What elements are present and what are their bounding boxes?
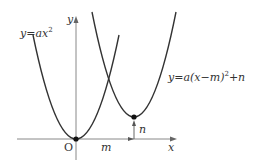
n-label: n [139, 124, 146, 135]
y-axis-label: y [67, 14, 73, 25]
curve2-suffix: +n [229, 71, 245, 84]
n-arrow-icon [132, 120, 136, 126]
m-arrow-icon [128, 137, 134, 141]
m-label: m [101, 142, 111, 153]
curve2-prefix: y=a(x−m) [168, 71, 224, 84]
curve1-text: y=ax [20, 27, 48, 40]
curve1-exp: 2 [48, 26, 52, 34]
origin-label: O [64, 142, 73, 153]
diagram-canvas: y x O m n y=ax2 y=a(x−m)2+n [0, 0, 254, 166]
parabola-shifted [92, 12, 176, 117]
vertex-point [131, 114, 136, 119]
origin-point [73, 136, 78, 141]
x-axis-label: x [168, 142, 174, 153]
y-axis-arrow-icon [74, 16, 79, 23]
curve2-label: y=a(x−m)2+n [168, 71, 245, 83]
curve1-label: y=ax2 [20, 27, 53, 39]
